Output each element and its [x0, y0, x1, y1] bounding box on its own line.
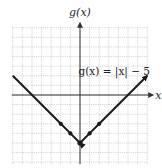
x-axis-label: x — [155, 89, 162, 102]
equation-label: g(x) = |x| − 5 — [79, 65, 150, 79]
y-axis-label: g(x) — [69, 6, 91, 19]
graph: g(x) x g(x) = |x| − 5 — [0, 0, 162, 168]
